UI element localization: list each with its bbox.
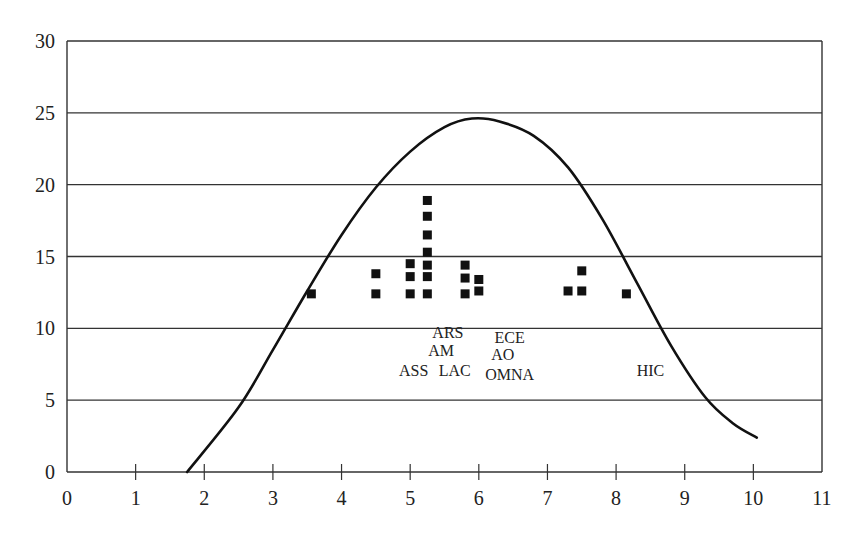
square-marker	[461, 261, 470, 270]
annotation-label: ARS	[432, 324, 463, 341]
y-axis-labels: 051015202530	[35, 30, 55, 483]
y-tick-label: 15	[35, 246, 55, 268]
y-tick-label: 5	[45, 389, 55, 411]
chart-canvas: 051015202530 01234567891011 ARSAMASSLACE…	[0, 0, 862, 546]
x-tick-label: 11	[812, 487, 831, 509]
square-marker	[371, 269, 380, 278]
x-axis-labels: 01234567891011	[62, 487, 832, 509]
y-tick-label: 0	[45, 461, 55, 483]
annotation-label: HIC	[637, 362, 665, 379]
square-marker	[564, 286, 573, 295]
square-marker	[406, 272, 415, 281]
square-marker	[423, 261, 432, 270]
annotation-label: OMNA	[485, 366, 534, 383]
square-marker	[577, 286, 586, 295]
square-marker	[307, 289, 316, 298]
square-marker	[474, 275, 483, 284]
square-marker	[406, 289, 415, 298]
square-marker	[461, 289, 470, 298]
x-tick-label: 8	[611, 487, 621, 509]
square-marker	[406, 259, 415, 268]
x-tick-label: 5	[405, 487, 415, 509]
x-tick-label: 3	[268, 487, 278, 509]
annotation-label: ECE	[495, 329, 525, 346]
x-tick-label: 1	[131, 487, 141, 509]
annotations: ARSAMASSLACECEAOOMNAHIC	[399, 324, 664, 383]
square-marker	[577, 266, 586, 275]
square-marker	[371, 289, 380, 298]
square-marker	[423, 196, 432, 205]
x-tick-label: 9	[680, 487, 690, 509]
square-marker	[474, 286, 483, 295]
x-tick-label: 10	[743, 487, 763, 509]
x-tick-label: 0	[62, 487, 72, 509]
y-tick-label: 25	[35, 102, 55, 124]
x-tick-label: 7	[542, 487, 552, 509]
square-marker	[423, 248, 432, 257]
square-marker	[622, 289, 631, 298]
square-marker	[423, 212, 432, 221]
square-marker	[423, 230, 432, 239]
bell-curve-line	[187, 118, 757, 472]
x-tick-label: 2	[199, 487, 209, 509]
square-marker	[423, 272, 432, 281]
y-tick-label: 20	[35, 174, 55, 196]
square-marker	[423, 289, 432, 298]
x-tick-label: 6	[474, 487, 484, 509]
data-markers	[307, 196, 631, 298]
scatter-chart: 051015202530 01234567891011 ARSAMASSLACE…	[0, 0, 862, 546]
annotation-label: LAC	[439, 362, 471, 379]
y-tick-label: 30	[35, 30, 55, 52]
y-tick-label: 10	[35, 317, 55, 339]
square-marker	[461, 274, 470, 283]
annotation-label: AO	[491, 346, 514, 363]
x-tick-label: 4	[337, 487, 347, 509]
annotation-label: ASS	[399, 362, 428, 379]
annotation-label: AM	[428, 342, 454, 359]
